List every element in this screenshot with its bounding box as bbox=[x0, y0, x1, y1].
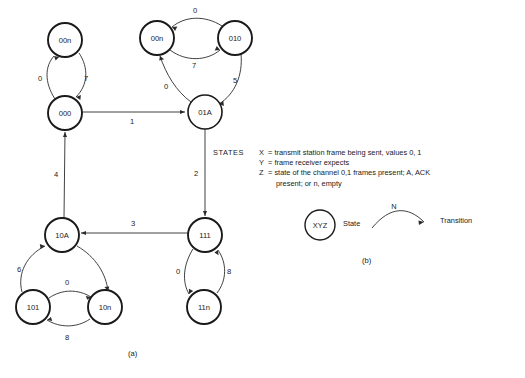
transition-000-to-00n-left bbox=[47, 56, 59, 99]
legend-def-x: X= transmit station frame being sent, va… bbox=[259, 148, 513, 158]
edge-label-0-01A: 0 bbox=[164, 82, 168, 91]
state-node-label: 10n bbox=[99, 303, 112, 312]
edge-label-0-upper-right: 0 bbox=[193, 6, 197, 15]
edge-label-1: 1 bbox=[130, 117, 134, 126]
transition-010-to-01A bbox=[219, 54, 241, 106]
edge-label-0-lower-right: 0 bbox=[176, 267, 180, 276]
legend-symbol-z: Z bbox=[259, 168, 268, 178]
state-node-10n[interactable]: 10n bbox=[88, 290, 122, 324]
key-state-node: XYZ bbox=[305, 210, 335, 240]
transition-01A-to-111 bbox=[203, 129, 207, 216]
legend-row-x: STATES X= transmit station frame being s… bbox=[213, 148, 513, 189]
legend-text-x: transmit station frame being sent, value… bbox=[274, 148, 421, 157]
state-node-label: 010 bbox=[229, 34, 242, 43]
legend-definitions: X= transmit station frame being sent, va… bbox=[259, 148, 513, 189]
state-node-label: 01A bbox=[198, 108, 212, 117]
legend-symbol-y: Y bbox=[259, 158, 268, 168]
edge-label-6: 6 bbox=[17, 265, 21, 274]
edge-label-4: 4 bbox=[54, 170, 58, 179]
legend-text-z: state of the channel 0,1 frames present;… bbox=[274, 168, 430, 177]
legend-symbol-x: X bbox=[259, 148, 268, 158]
legend-equals-z: = bbox=[268, 168, 272, 177]
state-node-01A[interactable]: 01A bbox=[188, 95, 222, 129]
legend-title: STATES bbox=[213, 148, 259, 158]
state-node-label: 11n bbox=[198, 303, 210, 312]
state-node-label: 10A bbox=[55, 231, 69, 240]
state-node-label: 00n bbox=[151, 34, 164, 43]
edge-label-8-lower-left: 8 bbox=[65, 333, 69, 342]
legend-continuation: present; or n, empty bbox=[259, 179, 513, 189]
state-node-10A[interactable]: 10A bbox=[45, 218, 79, 252]
key-state-node-label: XYZ bbox=[313, 221, 328, 230]
state-node-000[interactable]: 000 bbox=[48, 96, 82, 130]
state-node-010[interactable]: 010 bbox=[218, 21, 252, 55]
caption-b: (b) bbox=[362, 256, 371, 265]
state-node-00n-left[interactable]: 00n bbox=[48, 23, 82, 57]
state-node-111[interactable]: 111 bbox=[188, 218, 222, 252]
transition-101-to-10A bbox=[21, 244, 45, 292]
transition-000-to-01A bbox=[82, 110, 185, 114]
transition-10A-to-10n bbox=[77, 246, 109, 291]
caption-a: (a) bbox=[128, 349, 137, 358]
key-transition-arrow bbox=[372, 211, 424, 228]
legend-def-z: Z= state of the channel 0,1 frames prese… bbox=[259, 168, 513, 178]
key-arc-label: N bbox=[391, 202, 396, 211]
transition-10A-to-000 bbox=[63, 132, 67, 218]
transition-010-to-00n-right bbox=[172, 18, 222, 31]
key-transition-label: Transition bbox=[440, 216, 472, 225]
transition-111-to-11n bbox=[184, 249, 193, 294]
transition-111-to-10A bbox=[81, 231, 188, 235]
transition-01A-to-00n-right bbox=[159, 56, 191, 102]
legend-equals-y: = bbox=[268, 158, 272, 167]
edge-label-7-upper-left: 7 bbox=[84, 74, 88, 83]
transition-10n-to-101 bbox=[47, 317, 90, 326]
state-node-label: 00n bbox=[59, 36, 72, 45]
legend-equals-x: = bbox=[268, 148, 272, 157]
edge-label-0-lower-left: 0 bbox=[65, 278, 69, 287]
legend-text-y: frame receiver expects bbox=[274, 158, 349, 167]
edge-label-2: 2 bbox=[194, 169, 198, 178]
states-legend: STATES X= transmit station frame being s… bbox=[213, 148, 513, 189]
transition-101-to-10n bbox=[49, 291, 91, 300]
transition-11n-to-111 bbox=[214, 250, 224, 293]
key-state-label: State bbox=[343, 219, 360, 228]
edge-label-8-lower-right: 8 bbox=[227, 267, 231, 276]
transition-00n-right-to-010 bbox=[170, 46, 220, 59]
state-node-11n[interactable]: 11n bbox=[187, 290, 221, 324]
state-diagram-figure: 0 7 0 7 5 0 1 2 3 bbox=[0, 0, 525, 378]
state-node-label: 111 bbox=[199, 231, 211, 240]
state-node-label: 101 bbox=[27, 303, 40, 312]
legend-def-y: Y= frame receiver expects bbox=[259, 158, 513, 168]
edge-label-3: 3 bbox=[131, 219, 135, 228]
edge-label-5: 5 bbox=[233, 76, 237, 85]
state-node-101[interactable]: 101 bbox=[16, 290, 50, 324]
edge-label-7-upper-right: 7 bbox=[192, 61, 196, 70]
state-node-00n-right[interactable]: 00n bbox=[140, 21, 174, 55]
edge-label-0-upper-left: 0 bbox=[38, 74, 42, 83]
state-node-label: 000 bbox=[59, 109, 72, 118]
